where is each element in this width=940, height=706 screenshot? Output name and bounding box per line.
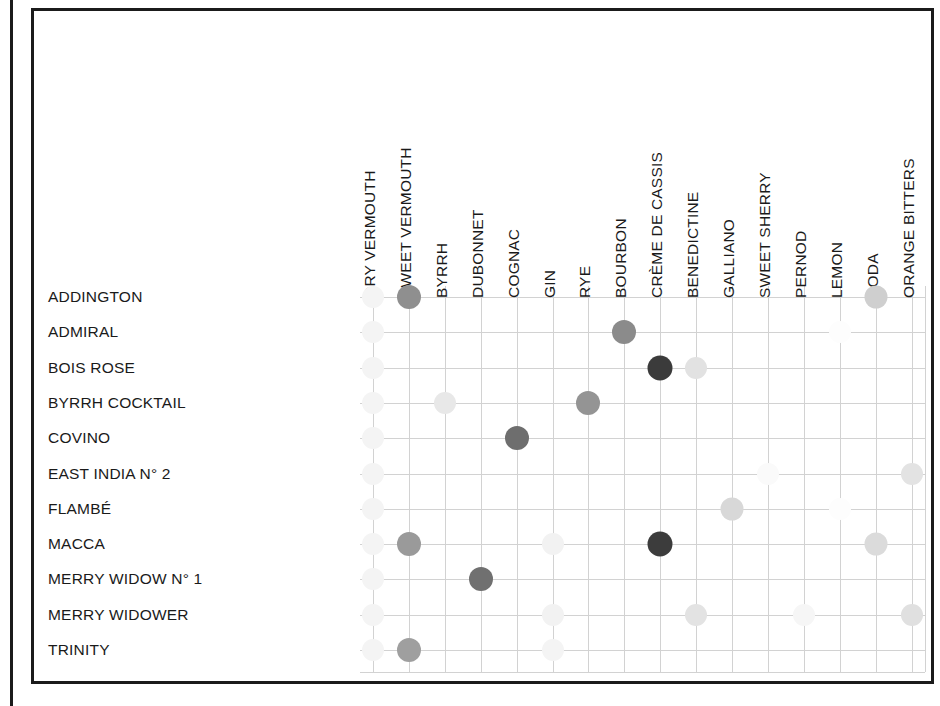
outer-rule-left [10,0,13,706]
figure-frame [31,8,934,684]
figure-page: DRY VERMOUTHSWEET VERMOUTHBYRRHDUBONNETC… [0,0,940,706]
